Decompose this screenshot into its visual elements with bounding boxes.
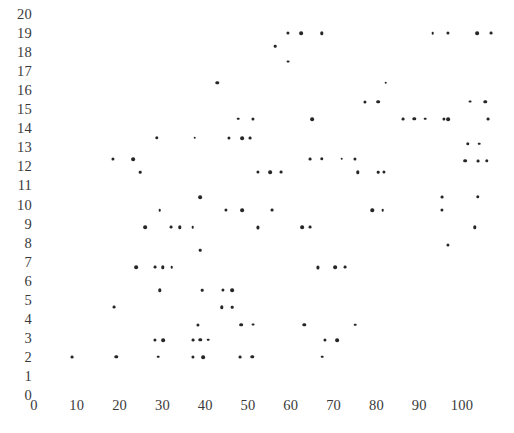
x-tick-label: 30 <box>155 398 170 413</box>
data-point <box>286 60 289 63</box>
data-point <box>134 266 138 270</box>
data-point <box>252 323 255 326</box>
data-point <box>161 338 165 342</box>
data-point <box>412 117 415 120</box>
y-tick-label: 19 <box>0 26 32 41</box>
data-point <box>154 266 157 269</box>
data-point <box>299 31 303 35</box>
data-point <box>335 338 339 342</box>
x-tick-label: 80 <box>369 398 384 413</box>
data-point <box>478 142 481 145</box>
data-point <box>256 171 259 174</box>
data-point <box>220 306 223 309</box>
y-tick-label: 9 <box>0 216 32 231</box>
y-tick-label: 10 <box>0 197 32 212</box>
data-point <box>131 157 135 161</box>
x-tick-label: 70 <box>326 398 341 413</box>
data-point <box>139 171 142 174</box>
x-tick-label: 40 <box>198 398 213 413</box>
data-point <box>446 32 449 35</box>
data-point <box>309 157 312 160</box>
data-point <box>446 243 449 246</box>
data-point <box>161 266 164 269</box>
data-point <box>225 209 228 212</box>
data-point <box>159 209 162 212</box>
data-point <box>256 226 259 229</box>
data-point <box>154 338 157 341</box>
data-point <box>490 32 493 35</box>
y-tick-label: 3 <box>0 331 32 346</box>
data-point <box>383 171 386 174</box>
data-point <box>112 157 115 160</box>
data-point <box>323 338 326 341</box>
data-point <box>370 208 373 211</box>
x-tick-label: 10 <box>69 398 84 413</box>
data-point <box>377 171 380 174</box>
y-tick-label: 20 <box>0 7 32 22</box>
data-point <box>320 31 323 34</box>
data-point <box>354 323 357 326</box>
data-point <box>271 209 274 212</box>
data-point <box>317 266 320 269</box>
data-point <box>320 157 323 160</box>
y-tick-label: 2 <box>0 350 32 365</box>
y-tick-label: 16 <box>0 83 32 98</box>
data-point <box>192 226 195 229</box>
x-tick-label: 60 <box>283 398 298 413</box>
data-point <box>376 100 380 104</box>
x-tick-label: 50 <box>241 398 256 413</box>
data-point <box>485 159 488 162</box>
x-tick-label: 20 <box>112 398 127 413</box>
data-point <box>157 356 160 359</box>
y-tick-label: 18 <box>0 45 32 60</box>
data-point <box>215 81 218 84</box>
data-point <box>201 355 205 359</box>
data-point <box>476 159 479 162</box>
data-point <box>155 136 158 139</box>
data-point <box>240 136 244 140</box>
y-tick-label: 5 <box>0 293 32 308</box>
data-point <box>158 288 161 291</box>
data-point <box>199 249 202 252</box>
data-point <box>473 226 476 229</box>
data-point <box>424 118 427 121</box>
data-point <box>463 159 467 163</box>
data-point <box>249 136 252 139</box>
data-point <box>356 170 359 173</box>
data-point <box>401 117 404 120</box>
data-point <box>309 226 312 229</box>
data-point <box>469 100 472 103</box>
data-point <box>440 209 443 212</box>
data-point <box>274 45 277 48</box>
data-point <box>196 323 199 326</box>
data-point <box>251 355 254 358</box>
data-point <box>475 31 479 35</box>
data-point <box>382 209 385 212</box>
data-point <box>231 306 234 309</box>
data-point <box>385 81 388 84</box>
data-point <box>487 117 490 120</box>
data-point <box>268 170 272 174</box>
data-point <box>446 117 450 121</box>
data-point <box>71 355 74 358</box>
data-point <box>238 355 241 358</box>
data-point <box>240 208 244 212</box>
y-tick-label: 4 <box>0 312 32 327</box>
data-point <box>198 195 202 199</box>
y-tick-label: 12 <box>0 159 32 174</box>
data-point <box>476 195 479 198</box>
data-point <box>483 100 486 103</box>
y-tick-label: 0 <box>0 388 32 403</box>
y-tick-label: 14 <box>0 121 32 136</box>
y-tick-label: 6 <box>0 273 32 288</box>
data-point <box>178 226 181 229</box>
data-point <box>113 306 116 309</box>
data-point <box>286 32 289 35</box>
data-point <box>201 289 204 292</box>
data-point <box>280 171 283 174</box>
data-point <box>237 118 240 121</box>
data-point <box>300 226 304 230</box>
data-point <box>321 356 324 359</box>
data-point <box>114 355 117 358</box>
data-point <box>432 32 435 35</box>
